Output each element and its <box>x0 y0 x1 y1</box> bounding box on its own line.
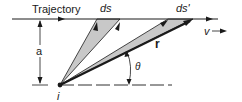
distance-arrow-up-icon <box>38 20 43 27</box>
ds-label: ds <box>100 2 112 14</box>
ds-prime-label: ds' <box>176 2 191 14</box>
observer-label: i <box>57 90 60 102</box>
distance-arrow-down-icon <box>38 77 43 84</box>
velocity-arrow-icon <box>220 29 227 34</box>
trajectory-arrow-icon <box>58 17 65 22</box>
angle-label: θ <box>135 61 141 72</box>
trajectory-diagram: Trajectory ds ds' v a r θ i <box>0 0 242 102</box>
distance-label: a <box>36 45 43 57</box>
trajectory-arrow-icon <box>206 17 213 22</box>
angle-arc <box>127 52 131 83</box>
trajectory-label: Trajectory <box>32 3 81 15</box>
velocity-label: v <box>204 25 211 37</box>
angle-arrow-down-icon <box>127 79 132 85</box>
ds-wedge <box>60 19 120 85</box>
observer-point <box>58 83 63 88</box>
radius-label: r <box>155 37 160 51</box>
